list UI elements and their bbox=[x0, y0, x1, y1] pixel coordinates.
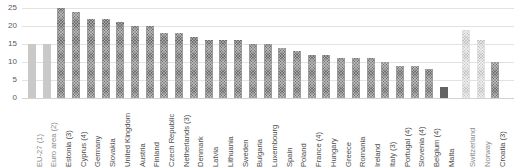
bar bbox=[175, 33, 183, 98]
bar bbox=[367, 58, 375, 98]
y-axis-tick-label: 10 bbox=[8, 58, 17, 66]
x-axis-tick-label: Luxembourg bbox=[271, 100, 279, 167]
x-axis-tick-label: Slovakia bbox=[109, 100, 117, 167]
bar bbox=[396, 66, 404, 98]
x-axis-tick-label: Netherlands (3) bbox=[183, 100, 191, 167]
bar bbox=[425, 69, 433, 98]
bar bbox=[462, 30, 470, 98]
x-axis-tick-label: Bulgaria bbox=[256, 100, 264, 167]
bar bbox=[43, 44, 51, 98]
bar bbox=[337, 58, 345, 98]
bar bbox=[190, 37, 198, 98]
bar bbox=[219, 40, 227, 98]
x-axis-tick-label: Switzerland bbox=[469, 100, 477, 167]
x-axis-tick-label: Malta bbox=[448, 100, 456, 167]
x-axis-tick-label: Lithuania bbox=[227, 100, 235, 167]
bar bbox=[477, 40, 485, 98]
x-axis-tick-label: Poland bbox=[300, 100, 308, 167]
x-axis-tick-label: Romania bbox=[359, 100, 367, 167]
x-axis-tick-label: Italy (3) bbox=[389, 100, 397, 167]
x-axis-tick-label: Belgium (4) bbox=[433, 100, 441, 167]
y-axis-tick-label: 15 bbox=[8, 40, 17, 48]
bar bbox=[381, 62, 389, 98]
bar bbox=[234, 40, 242, 98]
bars-layer bbox=[22, 8, 514, 98]
bar bbox=[205, 40, 213, 98]
x-axis-tick-label: Euro area (2) bbox=[50, 100, 58, 167]
x-axis-tick-label: Hungary bbox=[330, 100, 338, 167]
x-axis-tick-label: Croatia (3) bbox=[499, 100, 507, 167]
x-axis-tick-label: Czech Republic bbox=[168, 100, 176, 167]
x-axis-tick-label: Finland bbox=[153, 100, 161, 167]
bar bbox=[72, 12, 80, 98]
x-axis-tick-label: Denmark bbox=[197, 100, 205, 167]
y-axis: 0510152025 bbox=[0, 0, 20, 98]
x-axis-tick-label: Austria bbox=[139, 100, 147, 167]
bar bbox=[57, 8, 65, 98]
x-axis-tick-label: Ireland bbox=[374, 100, 382, 167]
bar bbox=[116, 22, 124, 98]
x-axis-labels: EU-27 (1)Euro area (2)Estonia (3)Cyprus … bbox=[22, 100, 514, 167]
bar bbox=[102, 19, 110, 98]
bar bbox=[352, 58, 360, 98]
plot-area bbox=[22, 8, 514, 98]
x-axis-tick-label: Estonia (3) bbox=[65, 100, 73, 167]
bar bbox=[308, 55, 316, 98]
y-axis-tick-label: 5 bbox=[13, 76, 17, 84]
x-axis-tick-label: Spain bbox=[286, 100, 294, 167]
x-axis-tick-label: Norway bbox=[484, 100, 492, 167]
bar bbox=[249, 44, 257, 98]
bar bbox=[28, 44, 36, 98]
bar bbox=[293, 51, 301, 98]
x-axis-tick-label: Sweden bbox=[242, 100, 250, 167]
bar-chart: 0510152025 EU-27 (1)Euro area (2)Estonia… bbox=[0, 0, 518, 167]
bar bbox=[160, 33, 168, 98]
x-axis-tick-label: EU-27 (1) bbox=[36, 100, 44, 167]
y-axis-tick-label: 25 bbox=[8, 4, 17, 12]
bar bbox=[440, 87, 448, 98]
bar bbox=[264, 44, 272, 98]
x-axis-tick-label: France (4) bbox=[315, 100, 323, 167]
x-axis-tick-label: Cyprus (4) bbox=[80, 100, 88, 167]
y-axis-tick-label: 0 bbox=[13, 94, 17, 102]
x-axis-tick-label: Greece bbox=[345, 100, 353, 167]
bar bbox=[322, 55, 330, 98]
bar bbox=[131, 26, 139, 98]
axis-baseline bbox=[22, 98, 514, 99]
bar bbox=[87, 19, 95, 98]
bar bbox=[146, 26, 154, 98]
y-axis-tick-label: 20 bbox=[8, 22, 17, 30]
x-axis-tick-label: Portugal (4) bbox=[404, 100, 412, 167]
x-axis-tick-label: Slovenia (4) bbox=[418, 100, 426, 167]
bar bbox=[491, 62, 499, 98]
bar bbox=[411, 66, 419, 98]
x-axis-tick-label: Germany bbox=[94, 100, 102, 167]
x-axis-tick-label: Latvia bbox=[212, 100, 220, 167]
bar bbox=[278, 48, 286, 98]
x-axis-tick-label: United Kingdom bbox=[124, 100, 132, 167]
